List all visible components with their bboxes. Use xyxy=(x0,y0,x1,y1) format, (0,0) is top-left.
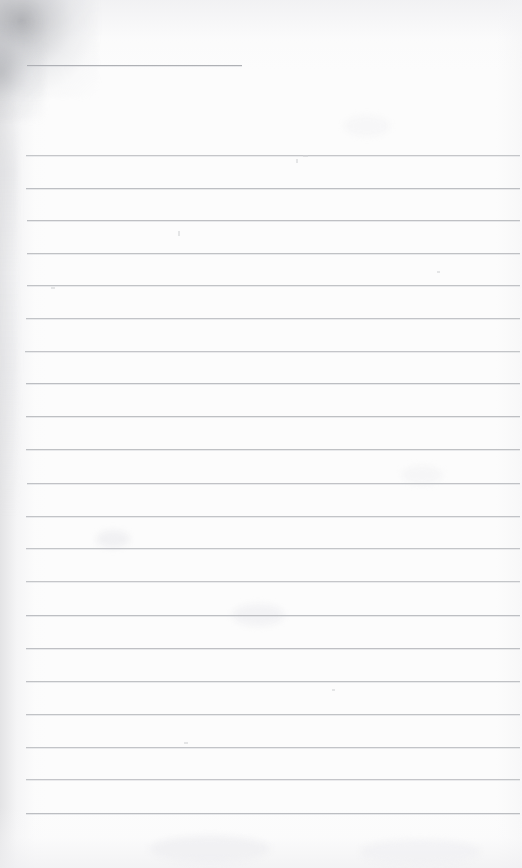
paper-surface xyxy=(0,0,522,868)
scanned-page xyxy=(0,0,522,868)
